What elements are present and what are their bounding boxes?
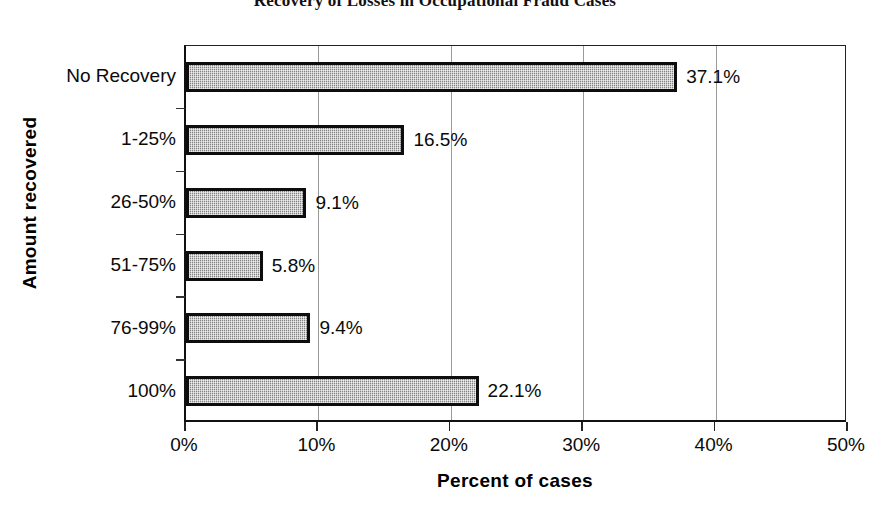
- x-axis-tick-mark: [714, 422, 716, 431]
- y-axis-tick-label: 76-99%: [6, 317, 176, 339]
- y-axis-tick-mark: [176, 234, 185, 236]
- chart-title: Recovery of Losses in Occupational Fraud…: [0, 0, 870, 11]
- x-axis-tick-mark: [316, 422, 318, 431]
- x-axis-tick-mark: [846, 422, 848, 431]
- y-axis-tick-labels: No Recovery1-25%26-50%51-75%76-99%100%: [0, 45, 176, 422]
- x-axis-tick-label: 0%: [139, 434, 229, 456]
- bar-row: 5.8%: [186, 235, 845, 298]
- bar-value-label: 22.1%: [488, 377, 542, 405]
- y-axis-tick-mark: [176, 296, 185, 298]
- y-axis-tick-mark: [176, 171, 185, 173]
- bar: [186, 376, 479, 406]
- bar-value-label: 5.8%: [272, 252, 315, 280]
- x-axis-tick-mark: [184, 422, 186, 431]
- y-axis-tick-label: 1-25%: [6, 128, 176, 150]
- x-axis-tick-label: 10%: [271, 434, 361, 456]
- bar-row: 22.1%: [186, 360, 845, 423]
- y-axis-tick-label: 100%: [6, 380, 176, 402]
- x-axis-tick-label: 20%: [404, 434, 494, 456]
- bar: [186, 313, 310, 343]
- y-axis-tick-label: No Recovery: [6, 65, 176, 87]
- bar: [186, 62, 677, 92]
- x-axis-tick-label: 30%: [536, 434, 626, 456]
- y-axis-tick-mark: [176, 108, 185, 110]
- x-axis-tick-mark: [581, 422, 583, 431]
- bar: [186, 251, 263, 281]
- x-axis-tick-label: 50%: [801, 434, 870, 456]
- y-axis-tick-label: 51-75%: [6, 254, 176, 276]
- bar-row: 37.1%: [186, 46, 845, 109]
- x-axis-title: Percent of cases: [184, 470, 846, 492]
- plot-area: 37.1%16.5%9.1%5.8%9.4%22.1%: [184, 45, 846, 422]
- bar-value-label: 16.5%: [413, 126, 467, 154]
- x-axis-tick-label: 40%: [669, 434, 759, 456]
- bar-row: 16.5%: [186, 109, 845, 172]
- bar: [186, 125, 404, 155]
- y-axis-tick-mark: [176, 359, 185, 361]
- x-axis-tick-mark: [449, 422, 451, 431]
- bar-row: 9.4%: [186, 297, 845, 360]
- bar-value-label: 9.1%: [315, 189, 358, 217]
- bar-value-label: 37.1%: [686, 63, 740, 91]
- bar-row: 9.1%: [186, 172, 845, 235]
- chart-figure: Recovery of Losses in Occupational Fraud…: [0, 0, 870, 506]
- bar: [186, 188, 306, 218]
- y-axis-tick-label: 26-50%: [6, 191, 176, 213]
- bar-value-label: 9.4%: [319, 314, 362, 342]
